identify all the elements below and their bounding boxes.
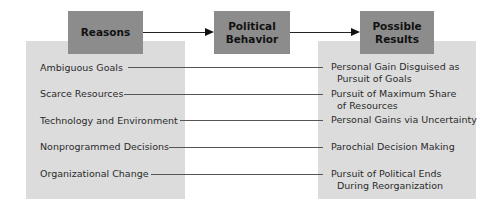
results-label-line1: Possible bbox=[372, 20, 421, 33]
reason-item: Technology and Environment bbox=[40, 115, 178, 126]
behavior-label-line1: Political bbox=[226, 20, 279, 33]
result-line1: Pursuit of Maximum Share bbox=[331, 88, 456, 99]
possible-results-box: Possible Results bbox=[360, 11, 434, 54]
behavior-label-line2: Behavior bbox=[226, 33, 279, 46]
reason-item: Scarce Resources bbox=[40, 88, 123, 99]
result-item: Personal Gain Disguised as Pursuit of Go… bbox=[331, 61, 459, 85]
result-item: Pursuit of Political Ends During Reorgan… bbox=[331, 168, 443, 192]
arrowhead-icon bbox=[351, 28, 360, 36]
arrowhead-icon bbox=[205, 28, 214, 36]
reason-item: Nonprogrammed Decisions bbox=[40, 141, 169, 152]
reason-item: Ambiguous Goals bbox=[40, 62, 123, 73]
reasons-label: Reasons bbox=[81, 26, 130, 39]
reasons-header-box: Reasons bbox=[68, 11, 143, 54]
result-line2: During Reorganization bbox=[331, 180, 443, 192]
result-line1: Personal Gains via Uncertainty bbox=[331, 114, 477, 125]
result-line2: Pursuit of Goals bbox=[331, 73, 459, 85]
political-behavior-box: Political Behavior bbox=[214, 11, 290, 54]
result-line1: Personal Gain Disguised as bbox=[331, 61, 459, 72]
result-line1: Parochial Decision Making bbox=[331, 141, 455, 152]
result-item: Parochial Decision Making bbox=[331, 141, 455, 153]
reason-item: Organizational Change bbox=[40, 168, 149, 179]
result-line2: of Resources bbox=[331, 100, 456, 112]
results-label-line2: Results bbox=[372, 33, 421, 46]
connector-line bbox=[180, 120, 323, 121]
result-item: Personal Gains via Uncertainty bbox=[331, 114, 477, 126]
result-line1: Pursuit of Political Ends bbox=[331, 168, 442, 179]
result-item: Pursuit of Maximum Share of Resources bbox=[331, 88, 456, 112]
connector-line bbox=[128, 67, 323, 68]
connector-line bbox=[169, 147, 323, 148]
connector-line bbox=[151, 174, 323, 175]
arrow-behavior-to-results bbox=[290, 32, 353, 33]
arrow-reasons-to-behavior bbox=[143, 32, 207, 33]
connector-line bbox=[124, 94, 323, 95]
